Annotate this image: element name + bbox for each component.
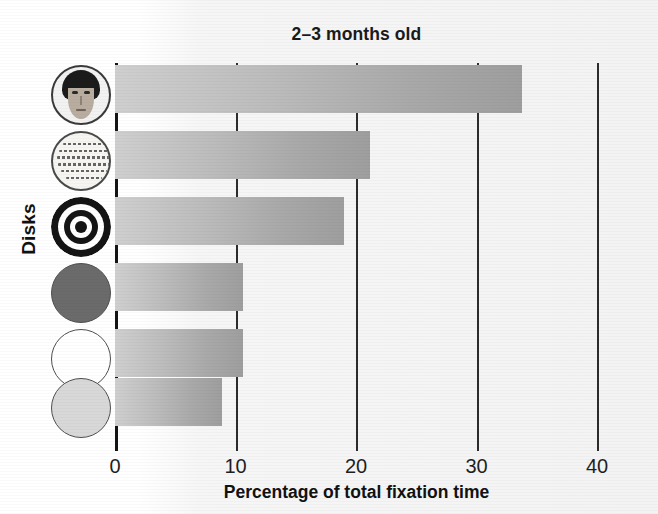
face-eye-left — [72, 91, 78, 94]
tickmark-0 — [115, 437, 118, 451]
bullseye-disk-icon — [51, 197, 111, 257]
chart-title: 2–3 months old — [115, 24, 598, 45]
bullseye-ring-5 — [75, 221, 87, 233]
x-axis-label: Percentage of total fixation time — [115, 482, 598, 503]
category-marker-red — [47, 263, 115, 331]
figure-bar-chart: 2–3 months old Disks Percentage of total… — [0, 0, 658, 514]
bar-bullseye-disk — [115, 197, 344, 245]
bar-face-disk — [115, 65, 522, 113]
gridline-10 — [236, 63, 238, 437]
bar-yellow-disk — [115, 378, 222, 426]
x-tick-label: 0 — [92, 455, 138, 478]
plot-area: 010203040 — [115, 63, 597, 437]
print-line — [61, 170, 107, 172]
category-marker-bullseye — [47, 197, 115, 265]
red-disk-icon — [51, 263, 111, 323]
tickmark-30 — [477, 437, 479, 451]
y-axis-label: Disks — [18, 184, 40, 274]
bar-white-disk — [115, 329, 243, 377]
bar-print-disk — [115, 131, 370, 179]
print-line — [59, 150, 111, 152]
tickmark-40 — [597, 437, 599, 451]
yellow-disk-icon — [51, 378, 111, 438]
face-nose — [80, 96, 82, 105]
x-tick-label: 30 — [454, 455, 500, 478]
face-fringe-shape — [66, 76, 96, 88]
print-line — [57, 156, 111, 158]
tickmark-20 — [356, 437, 358, 451]
x-tick-label: 10 — [213, 455, 259, 478]
print-line — [66, 177, 102, 179]
print-line — [58, 163, 110, 165]
x-tick-label: 40 — [574, 455, 620, 478]
bar-red-disk — [115, 263, 243, 311]
face-mouth — [76, 109, 86, 111]
face-eye-right — [84, 91, 90, 94]
gridline-30 — [477, 63, 479, 437]
category-marker-yellow — [47, 378, 115, 446]
gridline-40 — [597, 63, 599, 437]
print-disk-icon — [51, 131, 111, 191]
category-marker-print — [47, 131, 115, 199]
tickmark-10 — [236, 437, 238, 451]
print-line — [63, 143, 107, 145]
gridline-20 — [356, 63, 358, 437]
category-marker-face — [47, 65, 115, 133]
x-tick-label: 20 — [333, 455, 379, 478]
face-disk-icon — [51, 65, 111, 125]
